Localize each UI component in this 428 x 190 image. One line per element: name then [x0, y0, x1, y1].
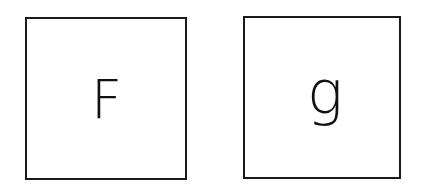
letter-card-uppercase-f: F	[25, 17, 187, 180]
letter-glyph: F	[91, 73, 122, 127]
letter-card-lowercase-g: g	[243, 16, 401, 179]
letter-glyph: g	[307, 62, 343, 122]
